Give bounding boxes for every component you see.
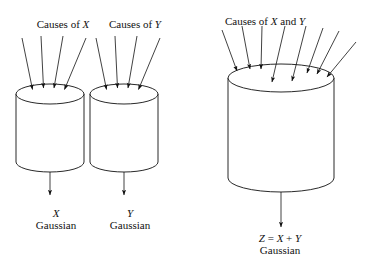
label-output-z-plus: + — [283, 232, 295, 244]
input-arrow-x-1 — [22, 38, 33, 90]
input-arrow-y-1 — [96, 38, 107, 90]
label-output-x-var: X — [53, 207, 60, 219]
label-output-y: YGaussian — [74, 207, 186, 231]
input-arrow-z-2 — [242, 26, 250, 69]
cylinder-y-top — [90, 84, 158, 104]
input-arrow-x-2 — [41, 36, 44, 88]
cylinder-x-top — [16, 84, 84, 104]
label-causes-of-x-and-y: Causes of X and Y — [200, 15, 330, 27]
label-output-y-dist: Gaussian — [74, 219, 186, 231]
label-causes-of-xy-var1: X — [271, 15, 278, 27]
label-output-z-dist: Gaussian — [210, 244, 350, 256]
label-causes-of-xy-mid: and — [278, 15, 299, 27]
label-causes-of-xy-var2: Y — [299, 15, 305, 27]
cylinder-z-body — [228, 78, 334, 192]
input-arrow-y-2 — [115, 36, 118, 88]
label-output-z: Z = X + YGaussian — [210, 232, 350, 256]
cylinder-x — [16, 84, 84, 172]
cylinder-x-body — [16, 94, 84, 172]
input-arrow-y-3 — [128, 36, 137, 88]
label-causes-of-xy-text: Causes of — [225, 15, 271, 27]
label-output-z-y: Y — [295, 232, 301, 244]
input-arrow-x-4 — [65, 38, 87, 90]
label-causes-of-y-var: Y — [155, 18, 161, 30]
input-arrow-z-3 — [261, 26, 262, 69]
cylinder-z-top — [228, 64, 334, 92]
label-causes-of-y-text: Causes of — [109, 18, 155, 30]
figure-canvas: Causes of X Causes of Y Causes of X and … — [0, 0, 369, 264]
input-arrow-z-8 — [327, 42, 356, 77]
input-arrow-z-1 — [222, 30, 237, 71]
cylinder-z — [228, 64, 334, 192]
input-arrow-x-3 — [54, 36, 63, 88]
label-output-y-var: Y — [127, 207, 133, 219]
cylinder-y-input-arrows — [96, 36, 160, 90]
cylinder-x-input-arrows — [22, 36, 86, 90]
cylinder-y-body — [90, 94, 158, 172]
cylinder-y — [90, 84, 158, 172]
input-arrow-z-7 — [317, 31, 339, 74]
input-arrow-y-4 — [139, 38, 161, 90]
label-output-z-eq: = — [265, 232, 277, 244]
label-causes-of-y: Causes of Y — [72, 18, 198, 30]
